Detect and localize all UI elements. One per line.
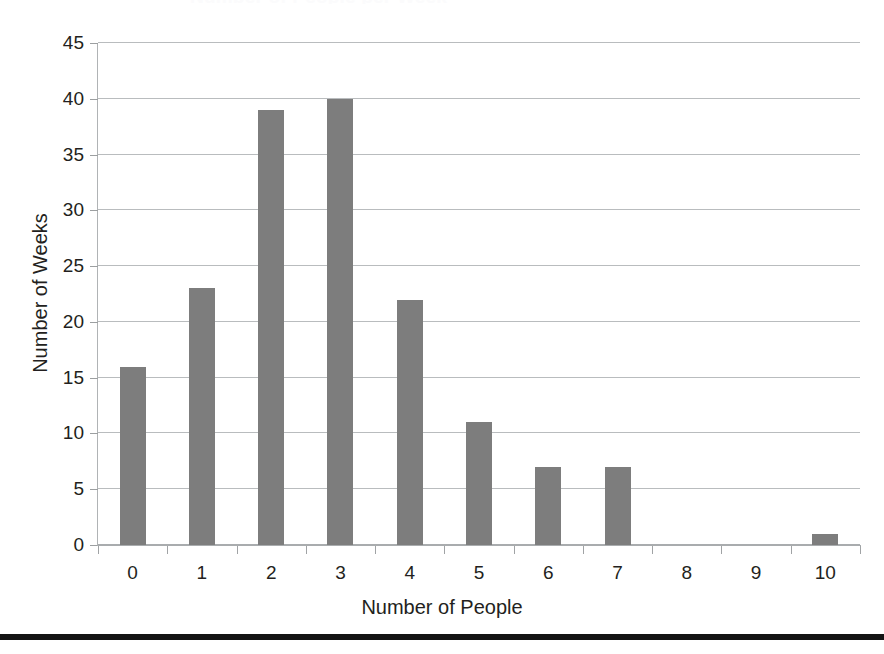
y-axis-tick bbox=[90, 489, 98, 490]
x-axis-title: Number of People bbox=[0, 596, 884, 618]
gridline bbox=[98, 42, 860, 43]
y-axis-tick-label: 10 bbox=[40, 423, 84, 442]
gridline bbox=[98, 265, 860, 266]
bar bbox=[189, 288, 215, 545]
y-axis-tick bbox=[90, 155, 98, 156]
x-axis-tick-label: 7 bbox=[588, 562, 648, 583]
x-axis-tick bbox=[652, 546, 653, 554]
bar bbox=[258, 110, 284, 545]
x-axis-tick-label: 0 bbox=[103, 562, 163, 583]
x-axis-tick bbox=[514, 546, 515, 554]
x-axis-tick-label: 9 bbox=[726, 562, 786, 583]
y-axis-tick-label: 5 bbox=[40, 479, 84, 498]
x-axis-tick bbox=[98, 546, 99, 554]
x-axis-tick bbox=[306, 546, 307, 554]
x-axis-tick-label: 5 bbox=[449, 562, 509, 583]
y-axis-tick-label: 0 bbox=[40, 535, 84, 554]
x-axis-tick-label: 8 bbox=[657, 562, 717, 583]
bar bbox=[327, 99, 353, 545]
y-axis-tick-label: 40 bbox=[40, 89, 84, 108]
y-axis-tick-label: 45 bbox=[40, 33, 84, 52]
bar bbox=[812, 534, 838, 545]
bar bbox=[120, 367, 146, 545]
plot-area bbox=[98, 43, 860, 545]
y-axis-spine bbox=[97, 43, 98, 546]
bar bbox=[535, 467, 561, 545]
bottom-rule bbox=[0, 634, 884, 640]
x-axis-tick bbox=[860, 546, 861, 554]
x-axis-tick-label: 4 bbox=[380, 562, 440, 583]
y-axis-tick bbox=[90, 210, 98, 211]
histogram-figure: Number of People per Week 05101520253035… bbox=[0, 0, 884, 654]
bar bbox=[605, 467, 631, 545]
gridline bbox=[98, 209, 860, 210]
y-axis-tick bbox=[90, 322, 98, 323]
x-axis-tick bbox=[583, 546, 584, 554]
x-axis-tick bbox=[375, 546, 376, 554]
x-axis-tick bbox=[444, 546, 445, 554]
bar bbox=[466, 422, 492, 545]
x-axis-tick-label: 2 bbox=[241, 562, 301, 583]
x-axis-tick-label: 3 bbox=[310, 562, 370, 583]
x-axis-tick bbox=[721, 546, 722, 554]
y-axis-tick bbox=[90, 43, 98, 44]
gridline bbox=[98, 154, 860, 155]
x-axis-tick bbox=[237, 546, 238, 554]
gridline bbox=[98, 98, 860, 99]
x-axis-tick-label: 1 bbox=[172, 562, 232, 583]
y-axis-tick bbox=[90, 99, 98, 100]
x-axis-tick bbox=[167, 546, 168, 554]
chart-title-clipped: Number of People per Week bbox=[190, 0, 710, 4]
x-axis-line bbox=[97, 545, 861, 546]
x-axis-tick-label: 6 bbox=[518, 562, 578, 583]
y-axis-tick bbox=[90, 433, 98, 434]
bar bbox=[397, 300, 423, 545]
y-axis-tick bbox=[90, 378, 98, 379]
y-axis-tick bbox=[90, 266, 98, 267]
x-axis-tick bbox=[791, 546, 792, 554]
x-axis-tick-label: 10 bbox=[795, 562, 855, 583]
y-axis-tick-label: 35 bbox=[40, 145, 84, 164]
y-axis-title: Number of Weeks bbox=[29, 183, 51, 403]
